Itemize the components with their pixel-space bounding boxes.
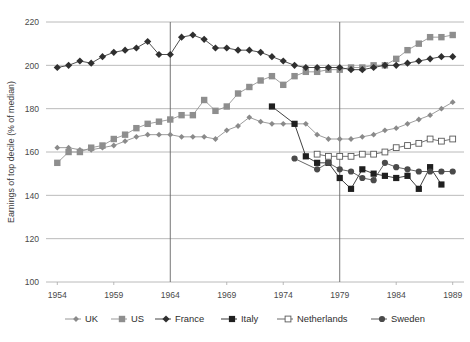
data-point-marker [438,181,444,187]
chart-legend: UKUSFranceItalyNetherlandsSweden [65,313,425,324]
data-point-marker [167,51,174,58]
data-point-marker [415,57,422,64]
series-italy [269,103,445,192]
data-point-marker [122,131,128,137]
data-point-marker [189,31,196,38]
data-point-marker [427,112,433,118]
x-axis-tick-label: 1974 [274,290,293,300]
data-point-marker [404,166,410,172]
data-point-marker [337,175,343,181]
series-france [54,31,457,73]
chart-container: 1001201401601802002201954195919641969197… [0,0,470,342]
x-axis-tick-label: 1984 [387,290,406,300]
data-point-marker [167,116,173,122]
y-axis-tick-label: 200 [25,61,40,71]
data-point-marker [314,151,320,157]
data-point-marker [269,103,275,109]
data-point-marker [314,166,320,172]
data-point-marker [303,153,309,159]
legend-label: Sweden [391,313,425,324]
legend-item-us[interactable]: US [111,313,144,324]
data-point-marker [314,160,320,166]
data-point-marker [133,125,139,131]
data-point-marker [291,121,297,127]
y-axis-tick-label: 140 [25,191,40,201]
data-point-marker [65,149,71,155]
data-point-marker [133,134,139,140]
data-point-marker [224,103,230,109]
data-point-marker [404,47,410,53]
data-point-marker [110,49,117,56]
x-axis-tick-label: 1979 [330,290,349,300]
data-point-marker [190,112,196,118]
data-point-marker [404,173,410,179]
data-point-marker [393,125,399,131]
data-point-marker [416,186,422,192]
data-point-marker [54,160,60,166]
data-point-marker [65,62,72,69]
data-point-marker [229,316,235,322]
series-line [57,102,452,150]
series-sweden [291,155,455,183]
data-point-marker [348,186,354,192]
legend-label: Netherlands [297,313,348,324]
data-point-marker [439,138,445,144]
data-point-marker [348,136,354,142]
data-point-marker [76,57,83,64]
data-point-marker [325,160,331,166]
data-point-marker [99,142,105,148]
data-point-marker [121,47,128,54]
data-point-marker [280,121,286,127]
legend-item-italy[interactable]: Italy [221,313,259,324]
data-point-marker [201,134,207,140]
data-point-marker [257,77,263,83]
legend-item-uk[interactable]: UK [65,313,99,324]
data-point-marker [405,143,411,149]
data-point-marker [450,136,456,142]
data-point-marker [77,149,83,155]
y-axis-tick-label: 220 [25,17,40,27]
data-point-marker [382,173,388,179]
data-point-marker [212,44,219,51]
data-point-marker [382,160,388,166]
legend-item-netherlands[interactable]: Netherlands [277,313,348,324]
data-point-marker [73,316,79,322]
legend-item-sweden[interactable]: Sweden [371,313,425,324]
data-point-marker [291,62,298,69]
data-point-marker [291,155,297,161]
data-point-marker [167,132,173,138]
data-point-marker [280,57,287,64]
data-point-marker [438,34,444,40]
data-point-marker [212,108,218,114]
data-point-marker [269,121,275,127]
data-point-marker [144,121,150,127]
data-point-marker [382,149,388,155]
y-axis-title: Earnings of top decile (% of median) [6,81,16,223]
data-point-marker [246,47,253,54]
data-point-marker [379,316,385,322]
data-point-marker [371,171,377,177]
data-point-marker [54,145,60,151]
data-point-marker [223,44,230,51]
data-point-marker [371,151,377,157]
data-point-marker [371,132,377,138]
data-point-marker [122,138,128,144]
data-point-marker [269,73,275,79]
legend-item-france[interactable]: France [155,313,204,324]
data-point-marker [326,153,332,159]
data-point-marker [337,153,343,159]
data-point-marker [393,62,400,69]
x-axis-tick-label: 1959 [104,290,123,300]
x-axis-tick-label: 1954 [48,290,67,300]
data-point-marker [156,118,162,124]
data-point-marker [416,117,422,123]
series-line [57,35,452,163]
data-point-marker [348,168,354,174]
data-point-marker [337,136,343,142]
data-point-marker [246,84,252,90]
data-point-marker [201,97,207,103]
y-axis-tick-label: 120 [25,234,40,244]
data-point-marker [88,144,94,150]
data-point-marker [348,153,354,159]
data-point-marker [450,32,456,38]
